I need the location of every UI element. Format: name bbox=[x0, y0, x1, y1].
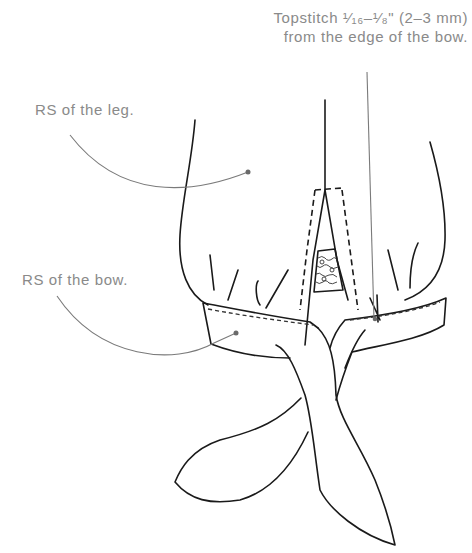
v-stitching-left bbox=[300, 190, 315, 310]
lace-texture bbox=[316, 257, 338, 284]
bow-crossing-strap bbox=[276, 328, 395, 545]
left-bow-topstitch bbox=[208, 309, 313, 325]
bow-sewing-illustration bbox=[0, 0, 472, 553]
bow-leader-dot bbox=[234, 331, 239, 336]
v-stitching-right bbox=[342, 190, 358, 310]
lace-insert-outline bbox=[314, 249, 343, 292]
gather-lines-left bbox=[210, 255, 288, 308]
leg-leader-line bbox=[70, 135, 248, 188]
v-stitching-top bbox=[315, 188, 342, 190]
gather-lines-right bbox=[370, 243, 418, 322]
leg-leader-dot bbox=[246, 170, 251, 175]
topstitch-leader-line bbox=[367, 72, 374, 320]
left-bow-band bbox=[203, 303, 318, 358]
left-bow-tail bbox=[175, 398, 308, 502]
right-strap bbox=[336, 330, 365, 400]
topstitch-leader-dot bbox=[373, 317, 378, 322]
left-leg-outline bbox=[180, 120, 208, 305]
